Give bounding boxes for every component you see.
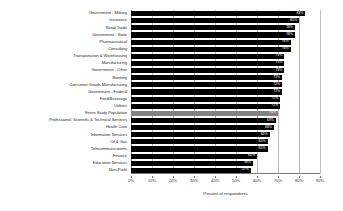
x-tick-label: 10% xyxy=(148,179,156,183)
bar: 66% xyxy=(131,132,270,137)
bar: 76% xyxy=(131,40,291,45)
x-tick-label: 90% xyxy=(316,179,324,183)
gridline xyxy=(320,10,321,174)
bar-value-label: 57% xyxy=(242,169,249,173)
x-tick-label: 20% xyxy=(169,179,177,183)
bar-value-label: 65% xyxy=(259,140,266,144)
bar: 72% xyxy=(131,75,282,80)
bar-row: 65% xyxy=(131,146,320,151)
bar: 72% xyxy=(131,89,282,94)
bar-value-label: 68% xyxy=(265,126,272,130)
bar-value-label: 83% xyxy=(296,12,303,16)
bar: 73% xyxy=(131,68,284,73)
bar: 65% xyxy=(131,146,268,151)
category-label: Health Care xyxy=(106,125,127,129)
plot-area: 83%80%78%78%76%76%73%73%73%72%72%72%71%7… xyxy=(131,10,320,174)
category-label: Pharmaceutical xyxy=(99,40,127,44)
bar-row: 73% xyxy=(131,68,320,73)
bar-row: 69% xyxy=(131,118,320,123)
x-axis-ticks: 0%10%20%30%40%50%60%70%80%90% xyxy=(131,176,320,186)
category-label: Utilities xyxy=(114,104,127,108)
bar-row: 57% xyxy=(131,168,320,173)
bar-value-label: 58% xyxy=(244,162,251,166)
bar-row: 60% xyxy=(131,154,320,159)
x-tick-label: 0% xyxy=(128,179,134,183)
bar-row: 71% xyxy=(131,104,320,109)
category-label: Government - Other xyxy=(91,68,127,72)
bar-row: 78% xyxy=(131,32,320,37)
bar-row: 58% xyxy=(131,161,320,166)
bar-value-label: 78% xyxy=(286,26,293,30)
bar-value-label: 73% xyxy=(275,55,282,59)
bar-row: 80% xyxy=(131,18,320,23)
category-label: Insurance xyxy=(109,18,127,22)
category-label: Telecommunications xyxy=(91,147,127,151)
bar-value-label: 70% xyxy=(269,112,276,116)
bar: 71% xyxy=(131,97,280,102)
bar-value-label: 78% xyxy=(286,33,293,37)
bar-row: 73% xyxy=(131,54,320,59)
bar-row: 66% xyxy=(131,132,320,137)
bar: 78% xyxy=(131,25,295,30)
category-label: Banking xyxy=(113,76,127,80)
category-label: Retail Trade xyxy=(106,26,127,30)
bar: 65% xyxy=(131,139,268,144)
bar-value-label: 71% xyxy=(271,104,278,108)
bar-value-label: 69% xyxy=(267,119,274,123)
category-label: Professional, Scientific & Technical Ser… xyxy=(49,118,127,122)
category-label: Education Services xyxy=(93,161,127,165)
category-label: Government - Military xyxy=(89,11,127,15)
bar-chart: Government - MilitaryInsuranceRetail Tra… xyxy=(0,0,343,211)
category-axis-labels: Government - MilitaryInsuranceRetail Tra… xyxy=(0,10,129,174)
bar-row: 78% xyxy=(131,25,320,30)
bar-value-label: 73% xyxy=(275,62,282,66)
bar: 76% xyxy=(131,47,291,52)
category-label: Consulting xyxy=(108,47,127,51)
x-tick-label: 70% xyxy=(274,179,282,183)
bar-value-label: 76% xyxy=(282,40,289,44)
bar-value-label: 72% xyxy=(273,76,280,80)
bar-row: 72% xyxy=(131,89,320,94)
category-label: Transportation & Warehousing xyxy=(73,54,127,58)
bar-row: 68% xyxy=(131,125,320,130)
category-label: Government - Federal xyxy=(88,90,127,94)
bar: 72% xyxy=(131,82,282,87)
x-tick-label: 50% xyxy=(232,179,240,183)
bar-row: 76% xyxy=(131,40,320,45)
category-label: Food/Beverage xyxy=(100,97,127,101)
bar-row: 65% xyxy=(131,139,320,144)
bar-value-label: 72% xyxy=(273,90,280,94)
bar: 58% xyxy=(131,161,253,166)
bar-row: 71% xyxy=(131,97,320,102)
category-label: Finance xyxy=(113,154,127,158)
bar: 57% xyxy=(131,168,251,173)
bar-row: 70% xyxy=(131,111,320,116)
bar: 71% xyxy=(131,104,280,109)
bar-value-label: 80% xyxy=(290,19,297,23)
category-label: Oil & Gas xyxy=(110,140,127,144)
bar-rows: 83%80%78%78%76%76%73%73%73%72%72%72%71%7… xyxy=(131,10,320,174)
bar-value-label: 76% xyxy=(282,47,289,51)
category-label: Entire Study Population xyxy=(85,111,127,115)
x-tick-label: 30% xyxy=(190,179,198,183)
category-label: Non-Profit xyxy=(109,168,127,172)
bar-row: 83% xyxy=(131,11,320,16)
x-tick-label: 80% xyxy=(295,179,303,183)
bar: 83% xyxy=(131,11,305,16)
category-label: Government - State xyxy=(92,33,127,37)
bar-value-label: 66% xyxy=(261,133,268,137)
category-label: Consumer Goods Manufacturing xyxy=(69,83,127,87)
bar-value-label: 72% xyxy=(273,83,280,87)
bar-row: 76% xyxy=(131,47,320,52)
bar: 80% xyxy=(131,18,299,23)
category-label: Information Services xyxy=(91,133,127,137)
bar-row: 72% xyxy=(131,82,320,87)
bar: 60% xyxy=(131,154,257,159)
bar: 68% xyxy=(131,125,274,130)
bar: 73% xyxy=(131,61,284,66)
category-label: Manufacturing xyxy=(102,61,127,65)
bar: 78% xyxy=(131,32,295,37)
bar-value-label: 60% xyxy=(248,154,255,158)
bar: 70% xyxy=(131,111,278,116)
bar-value-label: 73% xyxy=(275,69,282,73)
